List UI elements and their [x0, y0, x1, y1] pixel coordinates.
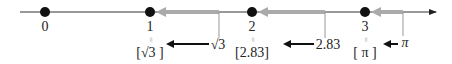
tick-label-2: 2 [249, 20, 256, 34]
tick-label-0: 0 [42, 20, 49, 34]
floor-label-pi: [ π ] [353, 46, 376, 60]
value-label-sqrt3: √3 [211, 38, 226, 52]
tick-label-3: 3 [362, 20, 369, 34]
floor-label-sqrt3: [√3 ] [136, 46, 164, 60]
equals-sign-1: = [146, 37, 155, 42]
equals-sign-3: = [361, 37, 370, 42]
equals-sign-2: = [248, 37, 257, 42]
number-line-diagram [0, 0, 452, 64]
value-label-2-83: 2.83 [316, 38, 341, 52]
floor-label-2-83: [2.83] [235, 46, 269, 60]
tick-label-1: 1 [147, 20, 154, 34]
value-markers [219, 12, 403, 38]
value-label-pi: π [401, 36, 408, 50]
